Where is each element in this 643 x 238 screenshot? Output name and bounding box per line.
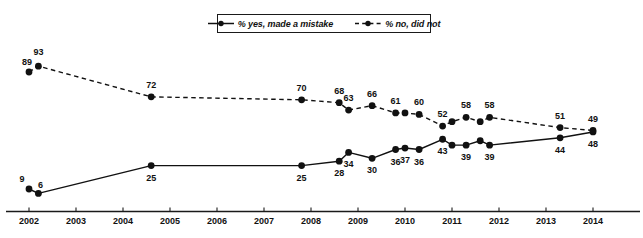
data-point-label: 70 [297,83,307,92]
data-point-marker [336,99,343,106]
chart-legend: % yes, made a mistake % no, did not [217,14,431,33]
data-point-marker [345,107,352,114]
data-point-marker [557,134,564,141]
data-point-marker [463,114,470,121]
data-point-marker [477,137,484,144]
legend-entry-yes: % yes, made a mistake [208,19,333,29]
data-point-marker [35,190,42,197]
data-point-label: 48 [588,139,598,148]
data-point-label: 25 [297,173,307,182]
data-point-marker [416,146,423,153]
legend-entry-no: % no, did not [355,19,440,29]
legend-label-yes: % yes, made a mistake [238,19,333,29]
data-point-marker [392,110,399,117]
data-point-marker [439,136,446,143]
x-axis-tick-label: 2009 [348,216,368,226]
x-axis-tick-label: 2003 [66,216,86,226]
data-point-marker [402,110,409,117]
data-point-marker [477,118,484,125]
data-point-marker [26,186,33,193]
data-point-label: 30 [367,166,377,175]
data-point-marker [392,146,399,153]
x-axis-tick-label: 2012 [489,216,509,226]
data-point-label: 89 [22,58,32,67]
data-point-label: 43 [438,147,448,156]
data-point-marker [369,155,376,162]
data-point-marker [369,102,376,109]
data-point-label: 6 [38,181,43,190]
data-point-label: 28 [334,169,344,178]
x-axis-tick-label: 2007 [254,216,274,226]
data-point-label: 44 [555,145,565,154]
data-point-marker [336,158,343,165]
data-point-label: 61 [391,96,401,105]
data-point-marker [416,111,423,118]
data-point-label: 25 [146,173,156,182]
x-axis-tick-label: 2005 [160,216,180,226]
data-point-marker [298,162,305,169]
data-point-label: 93 [33,48,43,57]
x-axis-tick-label: 2014 [583,216,603,226]
data-point-label: 58 [485,101,495,110]
data-point-marker [26,69,33,76]
x-axis-tick-label: 2010 [395,216,415,226]
data-point-marker [402,145,409,152]
legend-label-no: % no, did not [385,19,440,29]
data-point-marker [345,149,352,156]
data-point-label: 51 [555,111,565,120]
data-point-marker [557,124,564,131]
data-point-label: 63 [344,94,354,103]
data-point-label: 49 [588,114,598,123]
series-paths [29,66,593,193]
data-point-marker [463,142,470,149]
x-axis-tick-label: 2002 [19,216,39,226]
legend-swatch-dashed-icon [355,19,381,28]
x-axis-tick-label: 2011 [442,216,462,226]
x-axis-tick-label: 2006 [207,216,227,226]
line-chart: % yes, made a mistake % no, did not 2002… [0,0,643,238]
data-point-label: 58 [461,101,471,110]
data-point-label: 52 [438,110,448,119]
data-point-label: 60 [414,98,424,107]
plot-area [0,0,643,238]
data-point-marker [148,93,155,100]
series-line-yes [29,132,593,193]
legend-swatch-solid-icon [208,19,234,28]
data-point-label: 72 [146,80,156,89]
series-markers [26,63,597,197]
data-point-marker [148,162,155,169]
data-point-marker [449,142,456,149]
data-point-marker [486,114,493,121]
data-point-label: 37 [400,156,410,165]
x-axis-tick-label: 2008 [301,216,321,226]
data-point-label: 9 [19,175,24,184]
data-point-label: 34 [344,160,354,169]
data-point-marker [449,118,456,125]
x-axis-tick-label: 2004 [113,216,133,226]
series-line-no [29,66,593,130]
data-point-marker [439,123,446,130]
data-point-marker [298,96,305,103]
data-point-label: 66 [367,89,377,98]
data-point-marker [35,63,42,70]
x-axis-tick-label: 2013 [536,216,556,226]
data-point-label: 36 [414,157,424,166]
data-point-marker [590,127,597,134]
data-point-label: 39 [461,153,471,162]
data-point-label: 39 [485,153,495,162]
data-point-marker [486,142,493,149]
